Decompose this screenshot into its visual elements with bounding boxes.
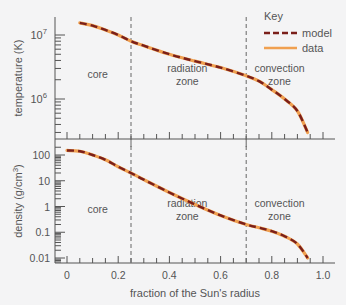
y-axis-label: temperature (K) [12,39,24,116]
y-tick-label: 1 [44,201,50,213]
zone-label: convectionzone [254,197,304,222]
y-axis-label: density (g/cm3) [11,164,24,238]
legend: Keymodeldata [264,10,332,54]
y-tick-label: 106 [30,91,47,105]
legend-data-label: data [302,42,324,54]
x-tick-label: 0.4 [162,269,177,281]
y-tick-label: 100 [32,149,50,161]
x-tick-label: 1.0 [316,269,331,281]
x-tick-label: 0.8 [264,269,279,281]
x-tick-label: 0 [64,269,70,281]
y-tick-label: 0.1 [35,226,50,238]
zone-label: core [88,203,109,215]
x-tick-label: 0.2 [111,269,126,281]
zone-label: radiationzone [167,62,207,87]
legend-model-label: model [302,27,332,39]
y-tick-label: 107 [30,27,47,41]
solar-interior-chart: 107106coreradiationzoneconvectionzonetem… [0,0,346,305]
zone-label: core [88,68,109,80]
density-panel: 1001010.10.01coreradiationzoneconvection… [11,139,335,281]
temperature-panel: 107106coreradiationzoneconvectionzonetem… [12,17,335,149]
x-axis-label: fraction of the Sun's radius [130,287,260,299]
y-tick-label: 0.01 [30,252,51,264]
x-tick-label: 0.6 [213,269,228,281]
legend-title: Key [264,10,283,22]
y-tick-label: 10 [38,175,50,187]
